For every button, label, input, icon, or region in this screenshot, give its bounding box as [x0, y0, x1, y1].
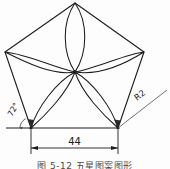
figure-container: 72° R2 44 图 5-12 五星图案图形: [0, 0, 170, 169]
petal-upper-left: [5, 52, 75, 73]
petal-lower-right: [75, 72, 118, 128]
petal-top: [65, 3, 85, 72]
vertex-arrow-marks: [28, 119, 122, 128]
dimension-arrow-right: [111, 146, 118, 150]
width-dimension-44: 44: [31, 130, 118, 154]
figure-caption: 图 5-12 五星图案图形: [37, 161, 133, 169]
dimension-arrow-left: [31, 146, 38, 150]
angle-annotation-72: 72°: [6, 101, 31, 129]
petal-group: [5, 3, 144, 128]
center-point: [73, 70, 77, 74]
pentagon-outline: [5, 3, 144, 128]
angle-arc: [20, 119, 26, 128]
radius-label-r2: R2: [132, 88, 147, 103]
petal-upper-right: [75, 52, 144, 73]
pentagon-shape: [5, 3, 144, 128]
dimension-value-44: 44: [68, 136, 81, 147]
angle-label-72: 72°: [6, 101, 21, 118]
figure-caption-strip: 图 5-12 五星图案图形: [0, 161, 170, 169]
center-node: [73, 70, 77, 74]
petal-lower-left: [31, 72, 75, 128]
pentagon-star-drawing: 72° R2 44: [0, 0, 170, 169]
